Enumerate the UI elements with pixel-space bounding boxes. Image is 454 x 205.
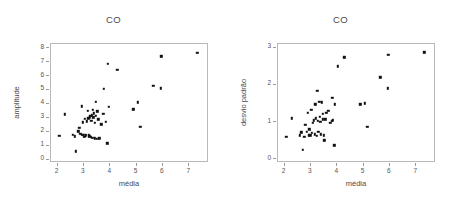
x-tick-label: 4 [328,168,344,175]
x-axis-label-left: média [50,179,208,188]
data-point [363,102,365,104]
data-point [343,56,345,58]
data-point [312,122,314,124]
x-tick-label: 7 [407,168,423,175]
data-point [196,52,198,54]
x-tick-mark [363,163,364,166]
data-point [106,142,108,144]
data-point [98,137,100,139]
data-point [94,122,96,124]
y-tick-mark [46,103,49,104]
data-point [336,65,338,67]
data-point [304,124,306,126]
y-tick-label: 0 [28,155,44,162]
panel-desvio-padrao: CO desvio padrão média 0123234567 [227,0,454,205]
data-point [315,135,317,137]
y-tick-mark [46,75,49,76]
data-point [316,89,318,91]
data-point [159,87,161,89]
data-point [300,131,302,133]
data-point [82,121,84,123]
data-point [102,113,104,115]
x-tick-mark [57,163,58,166]
data-point [325,112,327,114]
x-axis-label-right: média [277,179,435,188]
data-point [86,120,88,122]
data-point [86,110,88,112]
y-tick-mark [46,145,49,146]
panel-amplitude: CO amplitude média 012345678234567 [0,0,227,205]
data-point [64,113,66,115]
x-tick-mark [415,163,416,166]
plot-area-left [50,43,208,162]
data-point [301,149,303,151]
x-tick-label: 4 [101,168,117,175]
y-tick-label: 4 [28,99,44,106]
data-point [95,101,97,103]
data-point [80,105,82,107]
y-tick-mark [46,159,49,160]
x-tick-label: 5 [128,168,144,175]
data-point [74,150,76,152]
y-tick-label: 1 [28,141,44,148]
data-point [303,136,305,138]
y-tick-mark [46,61,49,62]
y-tick-label: 3 [255,43,271,50]
y-tick-mark [46,117,49,118]
x-tick-label: 6 [381,168,397,175]
data-point [307,112,309,114]
data-point [105,120,107,122]
y-tick-label: 2 [28,127,44,134]
y-tick-mark [273,158,276,159]
y-axis-label-right: desvio padrão [239,43,248,162]
data-point [96,110,98,112]
plot-area-right [277,43,435,162]
data-point [309,134,311,136]
x-tick-label: 7 [180,168,196,175]
data-point [366,125,368,127]
data-point [132,108,134,110]
y-tick-label: 8 [28,44,44,51]
panel-title-right: CO [227,14,454,25]
data-point [387,54,389,56]
data-point [285,136,287,138]
x-tick-label: 6 [154,168,170,175]
data-point [331,97,333,99]
data-point [136,101,138,103]
x-tick-label: 5 [355,168,371,175]
data-point [74,135,76,137]
data-point [332,119,334,121]
data-point [310,109,312,111]
data-point [306,130,308,132]
y-axis-label-left: amplitude [12,43,21,162]
data-point [299,134,301,136]
y-tick-label: 1 [255,118,271,125]
data-point [107,63,109,65]
x-tick-mark [284,163,285,166]
y-tick-mark [273,121,276,122]
data-point [322,112,324,114]
y-tick-label: 6 [28,72,44,79]
data-point [322,134,324,136]
data-point [90,119,92,121]
x-tick-label: 2 [276,168,292,175]
x-tick-mark [389,163,390,166]
x-tick-mark [136,163,137,166]
data-point [314,103,316,105]
data-point [97,118,99,120]
x-tick-mark [109,163,110,166]
data-point [386,87,388,89]
data-point [78,126,80,128]
y-tick-label: 7 [28,58,44,65]
data-point [319,121,321,123]
x-tick-label: 3 [302,168,318,175]
y-tick-label: 3 [28,113,44,120]
x-tick-label: 3 [75,168,91,175]
scatterplot-figure: CO amplitude média 012345678234567 CO de… [0,0,454,205]
data-point [327,109,329,111]
x-tick-mark [188,163,189,166]
y-tick-mark [273,84,276,85]
data-point [291,117,293,119]
data-point [313,119,315,121]
data-point [139,126,141,128]
